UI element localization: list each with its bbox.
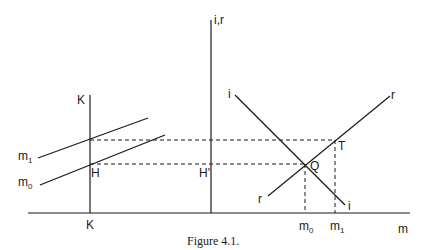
i-curve-label-top: i	[228, 87, 231, 101]
k-axis-label-bottom: K	[86, 218, 94, 232]
m-axis-label: m	[398, 222, 408, 236]
m1-curve	[38, 118, 148, 158]
i-curve	[235, 95, 345, 205]
i-curve-label-bottom: i	[348, 199, 351, 213]
point-t-label: T	[338, 139, 346, 153]
r-curve-label-bottom: r	[258, 192, 262, 206]
point-h-prime-label: H'	[199, 166, 210, 180]
ir-axis-label: i,r	[214, 13, 224, 27]
point-q-label: Q	[310, 159, 319, 173]
point-h-label: H	[91, 166, 100, 180]
m0-curve-label: m0	[18, 175, 33, 191]
m0-curve	[40, 135, 165, 185]
diagram-canvas: i,r m K K m1 m0 i i r r H H' Q T m0 m1 F…	[0, 0, 429, 250]
figure-caption: Figure 4.1.	[187, 234, 239, 248]
tick-m0-label: m0	[299, 219, 314, 235]
r-curve-label-top: r	[391, 88, 395, 102]
tick-m1-label: m1	[330, 219, 345, 235]
k-axis-label-top: K	[77, 93, 85, 107]
figure-4-1-diagram: i,r m K K m1 m0 i i r r H H' Q T m0 m1 F…	[0, 0, 429, 250]
m1-curve-label: m1	[18, 149, 33, 165]
